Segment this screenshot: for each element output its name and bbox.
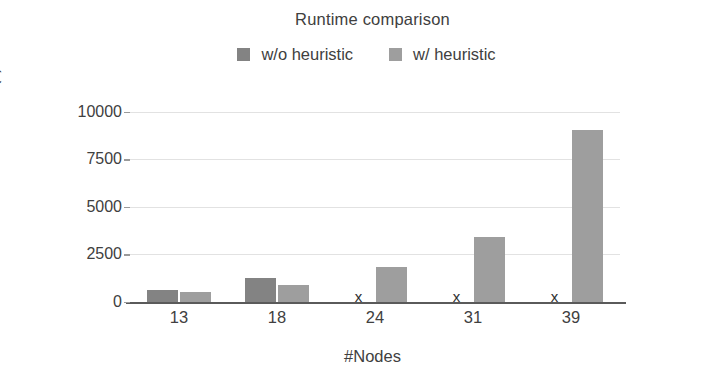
- x-axis-tick-label: 24: [366, 308, 384, 327]
- y-axis-tick-mark: [124, 254, 130, 255]
- y-axis-tick-label: 10000: [22, 103, 122, 121]
- x-axis-line: [126, 302, 626, 304]
- x-axis-tick-label: 31: [464, 308, 482, 327]
- y-axis-tick-label: 2500: [22, 245, 122, 263]
- x-axis-tick-label: 18: [268, 308, 286, 327]
- gridline: [130, 112, 620, 113]
- y-axis-tick-mark: [124, 207, 130, 208]
- x-axis-tick-label: 39: [562, 308, 580, 327]
- bar[interactable]: [474, 237, 505, 302]
- bar[interactable]: [245, 278, 276, 302]
- y-axis-tick-mark: [124, 302, 130, 303]
- x-axis-label: #Nodes: [0, 347, 709, 366]
- bar[interactable]: [180, 292, 211, 302]
- bar[interactable]: [572, 130, 603, 302]
- y-axis-tick-mark: [124, 159, 130, 160]
- bar[interactable]: [376, 267, 407, 302]
- y-axis-tick-mark: [124, 112, 130, 113]
- y-axis-tick-label: 7500: [22, 150, 122, 168]
- x-axis-tick-label: 13: [170, 308, 188, 327]
- gridline: [130, 159, 620, 160]
- y-axis-label: Runtime (s): [0, 67, 2, 150]
- chart-plot: Runtime (s) xxx #Nodes 02500500075001000…: [0, 0, 709, 386]
- bar[interactable]: [147, 290, 178, 302]
- bar[interactable]: [278, 285, 309, 302]
- plot-area: xxx: [130, 104, 620, 302]
- gridline: [130, 254, 620, 255]
- y-axis-tick-label: 0: [22, 293, 122, 311]
- y-axis-tick-label: 5000: [22, 198, 122, 216]
- gridline: [130, 207, 620, 208]
